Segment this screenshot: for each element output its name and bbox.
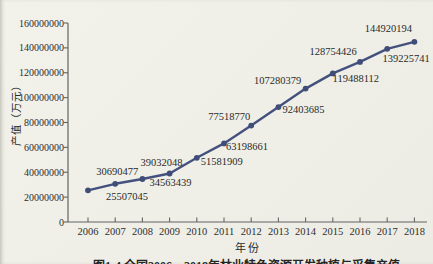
y-tick-label: 100000000 — [8, 92, 64, 103]
x-axis-title: 年份 — [68, 239, 427, 255]
data-point-label: 128754426 — [291, 46, 375, 58]
y-tick-label: 0 — [8, 217, 64, 228]
data-point-label: 119488112 — [314, 73, 398, 85]
data-point-label: 63198661 — [205, 141, 289, 153]
data-point-label: 92403685 — [261, 104, 345, 116]
y-tick-label: 80000000 — [8, 117, 64, 128]
data-point-marker — [357, 59, 363, 65]
data-point-label: 25507045 — [85, 191, 169, 203]
data-point-marker — [167, 171, 173, 177]
data-point-label: 107280379 — [236, 75, 320, 87]
x-tick-label: 2018 — [397, 226, 431, 237]
y-tick-label: 40000000 — [8, 167, 64, 178]
data-point-label: 144920194 — [346, 23, 430, 35]
y-axis-title: 产值（万元） — [8, 80, 23, 146]
y-tick-label: 160000000 — [8, 18, 64, 29]
chart-canvas — [0, 0, 433, 264]
data-point-label: 139225741 — [364, 53, 433, 65]
data-point-marker — [112, 181, 118, 187]
y-tick-label: 140000000 — [8, 42, 64, 53]
data-point-marker — [248, 123, 254, 129]
data-point-marker — [384, 46, 390, 52]
line-chart: 产值（万元） 020000000400000006000000080000000… — [0, 0, 433, 264]
figure-caption: 图1-4 全国2006—2018年林业特色资源开发种植与采集产值 — [58, 256, 433, 264]
data-point-marker — [303, 86, 309, 92]
data-point-marker — [412, 39, 418, 45]
scanned-page: 产值（万元） 020000000400000006000000080000000… — [0, 0, 433, 264]
y-tick-label: 120000000 — [8, 67, 64, 78]
data-point-label: 51581909 — [180, 156, 264, 168]
y-tick-label: 60000000 — [8, 142, 64, 153]
y-tick-label: 20000000 — [8, 192, 64, 203]
data-point-label: 34563439 — [128, 177, 212, 189]
data-point-label: 77518770 — [187, 111, 271, 123]
